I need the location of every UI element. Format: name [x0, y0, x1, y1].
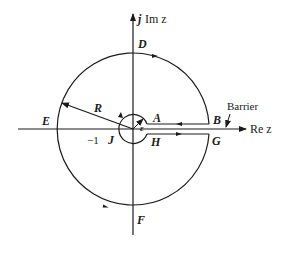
barrier-pointer — [226, 114, 230, 127]
point-h-label: H — [150, 135, 161, 149]
point-d-label: D — [137, 37, 147, 51]
imag-axis-label-j: j — [136, 12, 142, 26]
point-e-label: E — [41, 114, 50, 128]
arrow-upper-slit-icon — [176, 122, 182, 126]
contour-diagram: j Im z Re z D E A B G H J F R ε −1 Barri… — [0, 0, 288, 261]
point-f-label: F — [136, 213, 145, 227]
point-b-label: B — [212, 113, 221, 127]
arrow-f-icon — [103, 204, 109, 208]
arrow-lower-slit-icon — [176, 132, 182, 136]
point-g-label: G — [212, 134, 221, 148]
real-axis-label: Re z — [250, 122, 272, 136]
arrow-inner-icon — [118, 112, 123, 118]
imag-axis-label: Im z — [145, 12, 167, 26]
point-j-label: J — [107, 133, 115, 147]
epsilon-label: ε — [140, 123, 144, 133]
point-a-label: A — [152, 111, 161, 125]
radius-label: R — [93, 101, 102, 115]
barrier-label: Barrier — [227, 100, 258, 112]
tick-minus-one-label: −1 — [87, 134, 99, 146]
